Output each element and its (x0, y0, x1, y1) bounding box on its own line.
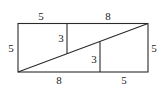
label-upper-vertical: 3 (58, 32, 64, 44)
label-bottom-left: 8 (56, 74, 62, 86)
diagonal-line (18, 24, 148, 73)
label-top-right: 8 (105, 10, 111, 22)
fibonacci-rectangle-diagram: 5 8 5 5 8 5 3 3 (0, 0, 164, 88)
label-right-side: 5 (151, 42, 157, 54)
label-lower-vertical: 3 (91, 53, 97, 65)
label-bottom-right: 5 (121, 74, 127, 86)
label-left-side: 5 (8, 42, 14, 54)
label-top-left: 5 (38, 10, 44, 22)
